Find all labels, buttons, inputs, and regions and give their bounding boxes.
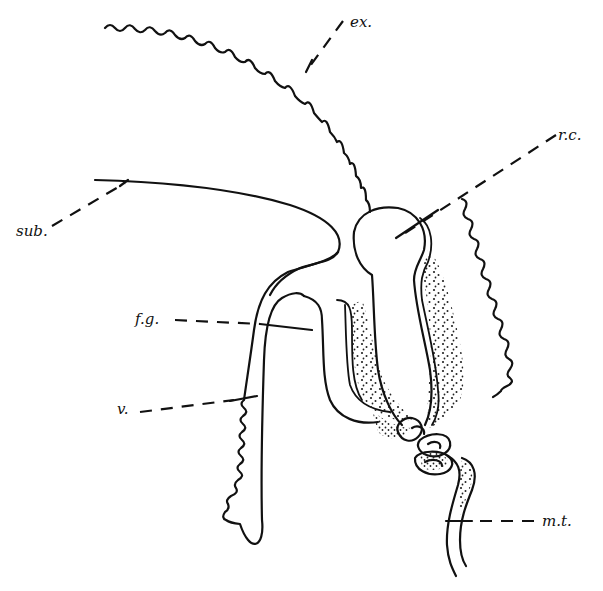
tick-rc bbox=[396, 210, 438, 238]
leader-fg bbox=[175, 320, 260, 324]
leader-ex bbox=[310, 21, 343, 66]
tick-ex bbox=[306, 60, 312, 72]
leader-lines bbox=[52, 21, 556, 521]
stippled-tissue-right bbox=[422, 250, 464, 428]
subumbrella-outline bbox=[95, 180, 340, 295]
label-velum: v. bbox=[117, 400, 128, 418]
stippled-tissue-left bbox=[352, 300, 412, 420]
label-subumbrella: sub. bbox=[16, 222, 48, 240]
leader-rc bbox=[402, 135, 556, 235]
label-food-groove: f.g. bbox=[135, 310, 159, 328]
label-manubrium-tube: m.t. bbox=[542, 512, 572, 530]
anatomical-diagram bbox=[0, 0, 603, 591]
leader-v bbox=[140, 400, 234, 412]
label-ring-canal: r.c. bbox=[558, 126, 581, 144]
leader-sub bbox=[52, 183, 125, 226]
label-exumbrella: ex. bbox=[350, 13, 372, 31]
